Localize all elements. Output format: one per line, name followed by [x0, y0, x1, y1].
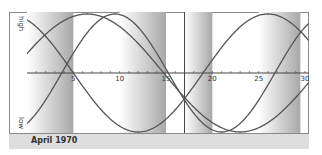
y-axis-labels: high low — [9, 12, 27, 133]
x-tick-label: 10 — [115, 75, 124, 83]
footer-month-label: April 1970 — [31, 136, 77, 145]
biorhythm-chart: 51015202530 — [27, 12, 309, 133]
plot-area: 51015202530 — [27, 12, 309, 133]
chart-footer: April 1970 — [9, 133, 309, 149]
x-tick-label: 20 — [208, 75, 217, 83]
x-tick-label: 30 — [301, 75, 309, 83]
y-label-high: high — [11, 16, 25, 31]
y-label-low: low — [11, 117, 25, 129]
x-tick-label: 25 — [254, 75, 263, 83]
